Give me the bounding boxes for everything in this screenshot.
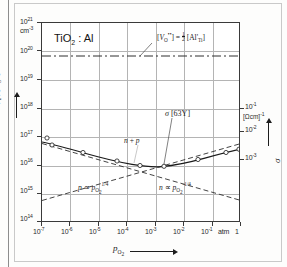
xtick-mark-1e-7 bbox=[41, 222, 42, 226]
ytick-mark-1e16 bbox=[37, 165, 41, 166]
x-axis-title: pO2 bbox=[113, 243, 124, 257]
ytick-mark-1e18 bbox=[37, 108, 41, 109]
p-powerlaw-label: p ∝ pO21/4 bbox=[78, 181, 108, 195]
sum-np-label: n + p bbox=[124, 136, 139, 145]
ytick-label-1e17: 1017 bbox=[20, 129, 33, 138]
ytick-mark-1e17 bbox=[37, 136, 41, 137]
x-axis-unit-atm: atm bbox=[218, 228, 229, 235]
xtick-mark-1e-6 bbox=[69, 222, 70, 226]
right-axis-unit-label: [Ωcm]-1 bbox=[243, 111, 265, 120]
right-ytick-mark-1e-1 bbox=[240, 108, 244, 109]
plot-area: TiO2 : Al [VO••] = 12 [Al'Ti] σ [63Y] n … bbox=[41, 22, 240, 222]
x-axis-arrow bbox=[130, 251, 174, 252]
vacancy-plateau-label: [VO••] = 12 [Al'Ti] bbox=[157, 31, 205, 43]
curve-n-plus-p bbox=[42, 142, 240, 167]
curve-n-powerlaw bbox=[42, 144, 240, 201]
xtick-label-1e-4: 10-4 bbox=[117, 226, 128, 235]
ytick-label-1e15: 1015 bbox=[20, 185, 33, 194]
sample-title: TiO2 : Al bbox=[54, 32, 94, 46]
data-markers bbox=[45, 136, 240, 169]
right-ytick-label-1e-2: 10-2 bbox=[245, 124, 256, 133]
ytick-mark-1e15 bbox=[37, 193, 41, 194]
y-axis-title: n, p, [VO••] bbox=[0, 73, 2, 108]
xtick-mark-1e-1 bbox=[212, 222, 213, 226]
ytick-label-1e14: 1014 bbox=[20, 213, 33, 222]
xtick-label-1e-6: 10-6 bbox=[61, 226, 72, 235]
right-ytick-label-1e-3: 10-3 bbox=[245, 152, 256, 161]
chart-curves-overlay bbox=[42, 23, 240, 222]
ytick-mark-1e19 bbox=[37, 79, 41, 80]
ytick-label-1e18: 1018 bbox=[20, 101, 33, 110]
xtick-label-1e-3: 10-3 bbox=[145, 226, 156, 235]
ytick-mark-1e21 bbox=[37, 22, 41, 23]
curve-p-powerlaw bbox=[42, 144, 240, 201]
xtick-label-1e-2: 10-2 bbox=[173, 226, 184, 235]
leader-sigma-label bbox=[164, 118, 172, 164]
ytick-label-1e16: 1016 bbox=[20, 157, 33, 166]
page-margin-rule bbox=[8, 0, 9, 267]
xtick-mark-1 bbox=[240, 222, 241, 226]
xtick-mark-1e-2 bbox=[183, 222, 184, 226]
right-axis-arrow bbox=[268, 122, 269, 146]
right-ytick-label-1e-1: 10-1 bbox=[245, 101, 256, 110]
xtick-mark-1e-4 bbox=[126, 222, 127, 226]
xtick-label-1: 1 bbox=[235, 228, 239, 235]
xtick-label-1e-1: 10-1 bbox=[201, 226, 212, 235]
y-axis-arrow bbox=[16, 96, 17, 118]
ytick-label-1e20: 1020 bbox=[20, 45, 33, 54]
xtick-label-1e-7: 10-7 bbox=[33, 226, 44, 235]
figure-root: 1021 cm-3 1020 1019 1018 1017 1016 1015 … bbox=[0, 0, 287, 267]
xtick-mark-1e-3 bbox=[155, 222, 156, 226]
y-axis-top-decade-label: 1021 bbox=[20, 16, 33, 25]
right-ytick-mark-1e-2 bbox=[240, 131, 244, 132]
leader-vacancy-label bbox=[140, 43, 152, 56]
right-ytick-mark-1e-3 bbox=[240, 159, 244, 160]
n-powerlaw-label: n ∝ pO2-1/4 bbox=[159, 181, 191, 195]
ytick-label-1e19: 1019 bbox=[20, 73, 33, 82]
xtick-mark-1e-5 bbox=[98, 222, 99, 226]
conductivity-label: σ [63Y] bbox=[165, 109, 190, 118]
leader-np-label bbox=[134, 145, 138, 163]
y-axis-unit-label: cm-3 bbox=[20, 25, 33, 34]
right-axis-title: σ bbox=[272, 159, 282, 163]
xtick-label-1e-5: 10-5 bbox=[89, 226, 100, 235]
ytick-mark-1e20 bbox=[37, 50, 41, 51]
